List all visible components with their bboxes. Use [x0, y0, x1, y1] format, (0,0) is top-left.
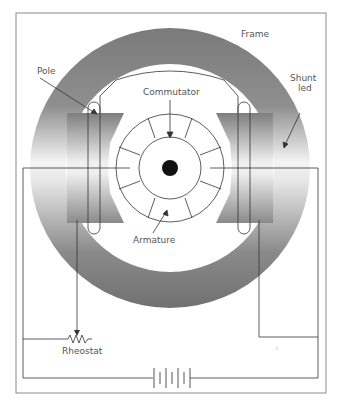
pole-label: Pole — [37, 66, 56, 76]
rheostat-label: Rheostat — [62, 346, 102, 356]
shunt-label-line2: led — [298, 83, 312, 93]
shaft — [162, 160, 178, 176]
shunt-label-line1: Shunt — [290, 73, 316, 83]
rheostat-arrow-icon — [74, 330, 80, 336]
armature-label: Armature — [133, 235, 175, 245]
motor-diagram — [0, 0, 339, 412]
battery-icon — [154, 368, 190, 388]
frame-label: Frame — [241, 29, 269, 39]
commutator-label: Commutator — [143, 87, 200, 97]
